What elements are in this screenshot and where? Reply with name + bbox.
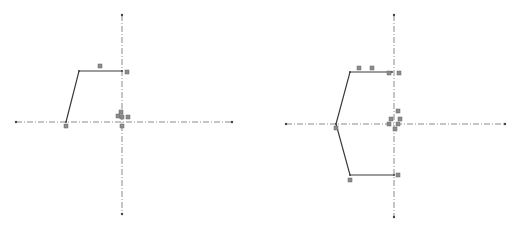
constraint-marker-icon[interactable] <box>389 117 393 121</box>
constraint-marker-icon[interactable] <box>98 64 102 68</box>
constraint-marker-icon[interactable] <box>334 126 338 130</box>
profile-polyline[interactable] <box>66 71 122 122</box>
vertex-point[interactable] <box>349 71 351 73</box>
constraint-marker-icon[interactable] <box>125 70 129 74</box>
constraint-marker-icon[interactable] <box>396 109 400 113</box>
constraint-marker-icon[interactable] <box>393 127 397 131</box>
vertex-point[interactable] <box>335 123 337 125</box>
axis-endpoint[interactable] <box>393 14 395 16</box>
axis-endpoint[interactable] <box>121 213 123 215</box>
left-sketch[interactable] <box>15 14 233 215</box>
constraint-marker-icon[interactable] <box>120 124 124 128</box>
vertex-point[interactable] <box>349 174 351 176</box>
axis-endpoint[interactable] <box>504 123 506 125</box>
axis-endpoint[interactable] <box>15 121 17 123</box>
vertex-point[interactable] <box>65 121 67 123</box>
constraint-marker-icon[interactable] <box>370 66 374 70</box>
vertex-point[interactable] <box>78 70 80 72</box>
constraint-marker-icon[interactable] <box>397 71 401 75</box>
constraint-marker-icon[interactable] <box>126 115 130 119</box>
constraint-marker-icon[interactable] <box>120 115 124 119</box>
axis-endpoint[interactable] <box>285 123 287 125</box>
constraint-marker-icon[interactable] <box>119 110 123 114</box>
vertex-point[interactable] <box>391 71 393 73</box>
constraint-marker-icon[interactable] <box>396 122 400 126</box>
constraint-marker-icon[interactable] <box>357 66 361 70</box>
constraint-marker-icon[interactable] <box>116 114 120 118</box>
constraint-marker-icon[interactable] <box>387 122 391 126</box>
sketch-canvas[interactable] <box>0 0 513 229</box>
constraint-marker-icon[interactable] <box>396 173 400 177</box>
axis-endpoint[interactable] <box>393 216 395 218</box>
constraint-marker-icon[interactable] <box>64 124 68 128</box>
axis-endpoint[interactable] <box>231 121 233 123</box>
vertex-point[interactable] <box>121 70 123 72</box>
right-sketch[interactable] <box>285 14 506 218</box>
constraint-marker-icon[interactable] <box>398 117 402 121</box>
axis-endpoint[interactable] <box>121 14 123 16</box>
constraint-marker-icon[interactable] <box>348 178 352 182</box>
constraint-marker-icon[interactable] <box>387 71 391 75</box>
vertex-point[interactable] <box>393 174 395 176</box>
